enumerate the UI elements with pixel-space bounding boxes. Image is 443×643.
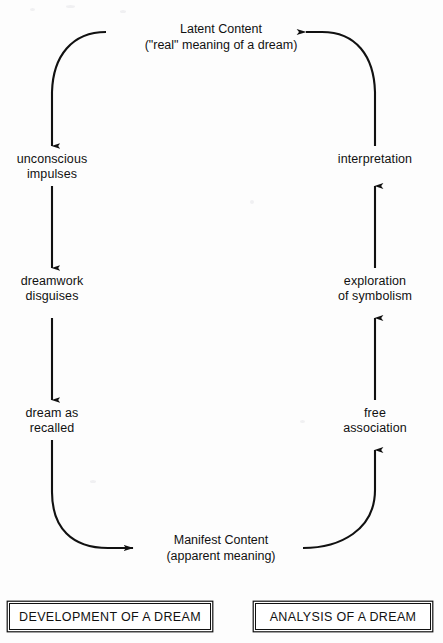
caption-development-label: DEVELOPMENT OF A DREAM (19, 610, 201, 624)
node-free-association: free association (325, 406, 425, 436)
latent-content-label: Latent Content ("real" meaning of a drea… (131, 22, 311, 53)
caption-analysis-label: ANALYSIS OF A DREAM (270, 610, 417, 624)
node-dream-as-recalled: dream as recalled (2, 406, 102, 436)
node-dreamwork-disguises: dreamwork disguises (2, 274, 102, 304)
manifest-content-label: Manifest Content (apparent meaning) (131, 533, 311, 564)
arrow-interpretation-to-latent (306, 32, 375, 146)
node-unconscious-impulses: unconscious impulses (2, 152, 102, 182)
caption-box-analysis: ANALYSIS OF A DREAM (255, 603, 431, 630)
node-interpretation: interpretation (325, 152, 425, 167)
dream-cycle-diagram: Latent Content ("real" meaning of a drea… (0, 0, 443, 643)
arrow-manifest-to-free-association (303, 450, 375, 548)
arrow-latent-to-unconscious (52, 32, 106, 146)
arrow-dream-to-manifest (52, 440, 133, 548)
node-exploration-of-symbolism: exploration of symbolism (325, 274, 425, 304)
caption-box-development: DEVELOPMENT OF A DREAM (9, 603, 211, 630)
